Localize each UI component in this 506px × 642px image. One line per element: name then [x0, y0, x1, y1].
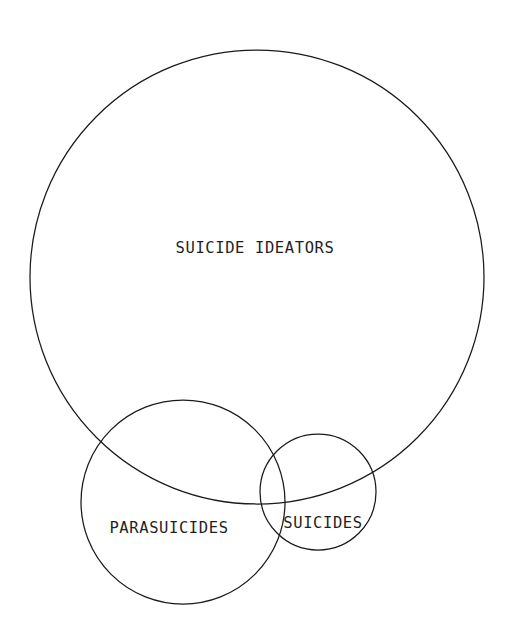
label-parasuicides: PARASUICIDES — [109, 519, 228, 537]
venn-diagram-canvas: SUICIDE IDEATORS PARASUICIDES SUICIDES — [0, 0, 506, 642]
diagram-background — [0, 0, 506, 642]
label-suicides: SUICIDES — [283, 514, 362, 532]
venn-diagram-svg: SUICIDE IDEATORS PARASUICIDES SUICIDES — [0, 0, 506, 642]
label-suicide-ideators: SUICIDE IDEATORS — [176, 239, 335, 257]
